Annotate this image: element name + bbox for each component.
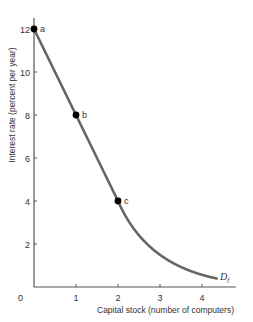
axes: [34, 18, 236, 287]
x-tick-label: 1: [73, 293, 78, 303]
point-a: [31, 26, 38, 33]
y-axis-title: Interest rate (percent per year): [7, 47, 17, 162]
x-tick-label: 4: [199, 293, 204, 303]
origin-label: 0: [18, 293, 23, 303]
x-tick-label: 3: [157, 293, 162, 303]
point-c: [115, 198, 122, 205]
point-label-a: a: [40, 24, 45, 34]
axis-ticks: 123424681012: [20, 25, 205, 304]
y-tick-label: 4: [25, 197, 30, 207]
point-label-b: b: [82, 110, 87, 120]
y-tick-label: 6: [25, 154, 30, 164]
y-tick-label: 2: [25, 240, 30, 250]
demand-for-capital-chart: 123424681012 abc 0 Capital stock (number…: [0, 0, 253, 322]
point-b: [73, 112, 80, 119]
y-tick-label: 10: [20, 68, 30, 78]
y-tick-label: 8: [25, 111, 30, 121]
x-axis-title: Capital stock (number of computers): [97, 305, 234, 315]
demand-curve-df: [34, 29, 217, 278]
point-label-c: c: [124, 196, 129, 206]
curve-label-subscript: f: [227, 276, 230, 284]
x-tick-label: 2: [115, 293, 120, 303]
curve-label-df: Df: [219, 271, 230, 284]
y-tick-label: 12: [20, 25, 30, 35]
